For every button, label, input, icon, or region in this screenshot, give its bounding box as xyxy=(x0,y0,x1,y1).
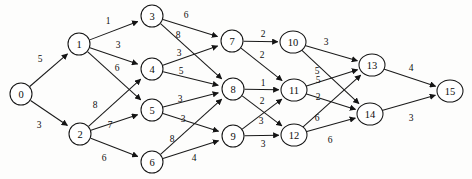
graph-edge xyxy=(305,93,356,109)
edge-weight-label: 2 xyxy=(260,96,265,106)
node-label: 10 xyxy=(288,37,299,48)
edge-weight-label: 6 xyxy=(115,63,120,73)
edge-weight-label: 3 xyxy=(116,40,121,50)
node-label: 7 xyxy=(229,36,234,47)
edge-weight-label: 3 xyxy=(178,94,183,104)
edge-weight-label: 6 xyxy=(184,10,189,20)
graph-edge xyxy=(88,52,141,100)
node-label: 11 xyxy=(289,85,299,96)
edge-weight-label: 8 xyxy=(176,30,181,40)
node-label: 1 xyxy=(76,39,81,50)
graph-edge xyxy=(91,138,138,156)
edge-weight-label: 6 xyxy=(315,113,320,123)
edge-weight-label: 7 xyxy=(108,120,113,130)
graph-edge xyxy=(245,135,279,136)
edge-weight-label: 2 xyxy=(261,29,266,39)
graph-edge xyxy=(30,54,68,87)
graph-diagram: 531368766835338422123335526643 012345678… xyxy=(0,0,472,179)
edge-weight-label: 6 xyxy=(328,135,333,145)
graph-edge xyxy=(305,70,358,87)
graph-node-4: 4 xyxy=(141,58,163,80)
graph-edge xyxy=(163,93,218,107)
graph-canvas: 531368766835338422123335526643 012345678… xyxy=(0,0,472,179)
edge-weight-label: 1 xyxy=(261,78,266,88)
graph-edge xyxy=(163,72,218,86)
graph-edge xyxy=(90,21,138,39)
graph-node-15: 15 xyxy=(437,80,463,102)
graph-edge xyxy=(90,48,138,64)
graph-node-13: 13 xyxy=(359,54,385,76)
edge-weight-label: 5 xyxy=(38,54,43,64)
edge-weight-label: 3 xyxy=(409,113,414,123)
graph-node-9: 9 xyxy=(222,125,244,147)
graph-node-6: 6 xyxy=(141,151,163,173)
node-label: 13 xyxy=(367,60,378,71)
graph-node-2: 2 xyxy=(69,123,91,145)
graph-node-3: 3 xyxy=(141,5,163,27)
graph-edge xyxy=(381,95,435,111)
edge-weight-label: 4 xyxy=(409,63,414,73)
edge-weight-label: 6 xyxy=(102,153,107,163)
graph-edge xyxy=(163,46,218,65)
node-label: 8 xyxy=(230,84,235,95)
edge-weight-label: 8 xyxy=(93,100,98,110)
graph-node-7: 7 xyxy=(221,30,243,52)
node-label: 4 xyxy=(149,64,155,75)
edge-weight-label: 3 xyxy=(259,116,264,126)
edge-weight-label: 1 xyxy=(106,16,111,26)
graph-edge xyxy=(161,24,222,79)
node-label: 12 xyxy=(289,130,300,141)
edge-weight-label: 3 xyxy=(181,114,186,124)
graph-edge xyxy=(304,45,357,61)
graph-edge xyxy=(244,41,278,42)
edge-weight-label: 5 xyxy=(316,75,321,85)
edge-weight-label: 5 xyxy=(179,66,184,76)
node-label: 5 xyxy=(149,105,154,116)
graph-edge xyxy=(245,89,279,90)
node-label: 6 xyxy=(149,157,154,168)
edge-weight-label: 4 xyxy=(192,153,197,163)
edge-weight-label: 3 xyxy=(37,120,42,130)
node-label: 14 xyxy=(365,109,376,120)
node-label: 3 xyxy=(149,11,154,22)
edge-weight-label: 3 xyxy=(177,48,182,58)
node-label: 2 xyxy=(77,129,82,140)
edge-weight-label: 2 xyxy=(260,50,265,60)
graph-node-11: 11 xyxy=(281,79,307,101)
edge-weight-label: 2 xyxy=(316,92,321,102)
edge-weight-label: 3 xyxy=(324,37,329,47)
node-label: 0 xyxy=(18,89,23,100)
graph-node-8: 8 xyxy=(222,78,244,100)
graph-node-12: 12 xyxy=(281,124,307,146)
graph-edge xyxy=(305,118,355,132)
graph-node-0: 0 xyxy=(10,83,32,105)
node-label: 15 xyxy=(445,86,456,97)
graph-node-10: 10 xyxy=(280,31,306,53)
node-label: 9 xyxy=(230,131,235,142)
nodes-layer: 0123456789101112131415 xyxy=(10,5,463,173)
graph-edge xyxy=(163,114,219,132)
graph-node-1: 1 xyxy=(68,33,90,55)
graph-edge xyxy=(161,99,222,154)
graph-node-14: 14 xyxy=(357,103,383,125)
edge-weight-label: 8 xyxy=(170,134,175,144)
edge-weight-label: 3 xyxy=(261,139,266,149)
graph-node-5: 5 xyxy=(141,99,163,121)
